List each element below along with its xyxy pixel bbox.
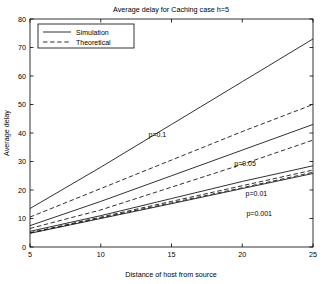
curve-label: p=0.01 bbox=[246, 190, 268, 198]
chart-title: Average delay for Caching case h=5 bbox=[113, 5, 229, 14]
x-tick-label: 20 bbox=[238, 250, 246, 259]
x-tick-label: 10 bbox=[97, 250, 105, 259]
y-tick-label: 50 bbox=[18, 100, 26, 109]
chart-container: Average delay for Caching case h=5 51015… bbox=[0, 0, 328, 284]
y-tick-label: 70 bbox=[18, 43, 26, 52]
y-tick-label: 10 bbox=[18, 214, 26, 223]
y-tick-label: 80 bbox=[18, 15, 26, 24]
x-axis-label: Distance of host from source bbox=[125, 270, 216, 279]
curve-label: p=0.1 bbox=[148, 131, 166, 139]
chart-legend: SimulationTheoretical bbox=[38, 24, 134, 48]
curve-label: p=0.05 bbox=[234, 160, 256, 168]
x-tick-label: 15 bbox=[168, 250, 176, 259]
y-axis-label: Average delay bbox=[2, 110, 11, 156]
y-tick-label: 40 bbox=[18, 129, 26, 138]
y-tick-label: 20 bbox=[18, 186, 26, 195]
legend-label: Simulation bbox=[76, 29, 109, 36]
curve-label: p=0.001 bbox=[246, 210, 272, 218]
y-tick-label: 0 bbox=[22, 243, 26, 252]
x-tick-label: 25 bbox=[309, 250, 317, 259]
y-tick-label: 60 bbox=[18, 72, 26, 81]
y-tick-label: 30 bbox=[18, 157, 26, 166]
legend-label: Theoretical bbox=[76, 39, 111, 46]
chart-svg: Average delay for Caching case h=5 51015… bbox=[0, 0, 328, 284]
x-tick-label: 5 bbox=[28, 250, 32, 259]
